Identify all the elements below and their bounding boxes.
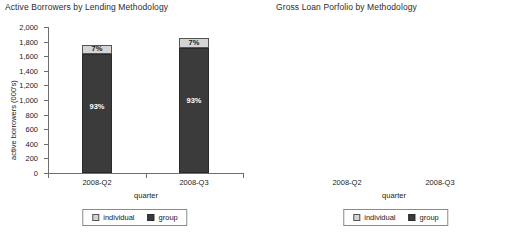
bar-2008-q2[interactable]: 7% 93%: [82, 45, 112, 174]
y-tick: 1,000: [44, 100, 48, 101]
legend-label-group: group: [420, 213, 439, 222]
legend-swatch-individual-icon: [92, 214, 99, 221]
y-tick: 1,200: [44, 85, 48, 86]
dual-chart-figure: Active Borrowers by Lending Methodology …: [0, 0, 508, 239]
y-tick: 1,600: [44, 56, 48, 57]
x-tick-label-2008-q2: 2008-Q2: [332, 178, 361, 187]
bar-segment-group[interactable]: 93%: [179, 48, 209, 174]
y-tick-label: 600: [25, 125, 38, 134]
x-tick: [243, 174, 244, 178]
legend-swatch-group-icon: [148, 214, 155, 221]
chart-panel-gross-loan-portfolio: Gross Loan Porfolio by Methodology value…: [254, 0, 508, 239]
legend: individual group: [82, 209, 187, 226]
y-tick-label: 1,600: [19, 52, 38, 61]
y-tick: 800: [44, 115, 48, 116]
y-tick: 400: [44, 144, 48, 145]
bar-2008-q3[interactable]: 7% 93%: [179, 38, 209, 173]
y-tick: 1,800: [44, 42, 48, 43]
segment-percent-label: 93%: [186, 97, 201, 105]
y-tick-label: 1,800: [19, 37, 38, 46]
y-tick-label: 2,000: [19, 23, 38, 32]
y-tick-label: 0: [34, 169, 38, 178]
bar-segment-individual[interactable]: 7%: [179, 38, 209, 48]
y-axis-title: active borrowers (000's): [9, 80, 18, 160]
x-tick: [48, 174, 49, 178]
segment-percent-label: 7%: [92, 45, 103, 53]
x-tick-label-2008-q2: 2008-Q2: [82, 178, 111, 187]
y-tick-label: 1,400: [19, 66, 38, 75]
y-axis-line: [48, 27, 49, 174]
y-tick: 200: [44, 158, 48, 159]
segment-percent-label: 7%: [189, 39, 200, 47]
legend-entry-group[interactable]: group: [409, 213, 439, 222]
x-tick: [146, 174, 147, 178]
legend-swatch-group-icon: [409, 214, 416, 221]
x-axis-title: quarter: [382, 191, 406, 200]
x-tick-label-2008-q3: 2008-Q3: [425, 178, 454, 187]
x-tick-label-2008-q3: 2008-Q3: [179, 178, 208, 187]
y-tick-label: 1,000: [19, 96, 38, 105]
y-tick-label: 200: [25, 154, 38, 163]
bar-segment-individual[interactable]: 7%: [82, 45, 112, 54]
bar-segment-group[interactable]: 93%: [82, 54, 112, 174]
chart-title: Active Borrowers by Lending Methodology: [5, 2, 168, 12]
plot-area: 2,000 1,800 1,600 1,400 1,200 1,000 800 …: [48, 27, 244, 174]
chart-title: Gross Loan Porfolio by Methodology: [276, 2, 417, 12]
legend-swatch-individual-icon: [353, 214, 360, 221]
y-tick: 600: [44, 129, 48, 130]
legend-label-individual: individual: [103, 213, 134, 222]
chart-panel-active-borrowers: Active Borrowers by Lending Methodology …: [0, 0, 254, 239]
y-tick: 1,400: [44, 71, 48, 72]
y-tick-label: 400: [25, 139, 38, 148]
legend-entry-individual[interactable]: individual: [353, 213, 395, 222]
legend: individual group: [343, 209, 448, 226]
legend-label-individual: individual: [364, 213, 395, 222]
y-tick-label: 800: [25, 110, 38, 119]
legend-label-group: group: [159, 213, 178, 222]
y-tick: 2,000: [44, 27, 48, 28]
legend-entry-group[interactable]: group: [148, 213, 178, 222]
legend-entry-individual[interactable]: individual: [92, 213, 134, 222]
segment-percent-label: 93%: [89, 103, 104, 111]
y-tick-label: 1,200: [19, 81, 38, 90]
x-axis-title: quarter: [134, 191, 158, 200]
